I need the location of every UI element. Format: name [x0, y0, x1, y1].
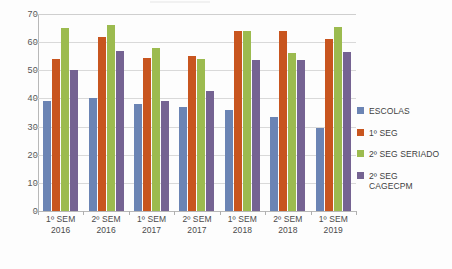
x-category-label: 1º SEM2018 [220, 214, 265, 236]
x-category-line-1: 2017 [174, 225, 219, 236]
bar [188, 56, 196, 211]
legend-swatch-icon [357, 150, 364, 157]
bar [343, 52, 351, 211]
x-category-line-0: 2º SEM [83, 214, 128, 225]
x-category-line-1: 2018 [220, 225, 265, 236]
x-tick-mark [220, 211, 221, 215]
legend-item[interactable]: 1º SEG [357, 128, 452, 139]
x-category-line-1: 2019 [311, 225, 356, 236]
bar [334, 27, 342, 211]
x-tick-mark [83, 211, 84, 215]
bar [70, 70, 78, 211]
x-category-label: 2º SEM2017 [174, 214, 219, 236]
x-category-line-0: 1º SEM [311, 214, 356, 225]
bar-chart: 010203040506070 1º SEM20162º SEM20161º S… [0, 0, 452, 269]
legend-item[interactable]: 2º SEG CAGECPM [357, 171, 452, 192]
x-category-line-1: 2016 [38, 225, 83, 236]
bar [206, 91, 214, 211]
bar-group [265, 14, 310, 211]
bar [52, 59, 60, 211]
x-category-line-0: 2º SEM [174, 214, 219, 225]
x-tick-mark [38, 211, 39, 215]
bar [225, 110, 233, 211]
bar [252, 60, 260, 211]
legend-swatch-icon [357, 129, 364, 136]
x-category-line-0: 1º SEM [129, 214, 174, 225]
bar [234, 31, 242, 211]
bar [316, 128, 324, 211]
x-category-label: 1º SEM2019 [311, 214, 356, 236]
x-category-label: 1º SEM2016 [38, 214, 83, 236]
y-axis-labels: 010203040506070 [0, 0, 38, 269]
x-category-line-0: 2º SEM [265, 214, 310, 225]
bar [288, 53, 296, 211]
legend-item-label: 2º SEG SERIADO [369, 149, 439, 160]
legend-item-label: 2º SEG CAGECPM [369, 171, 413, 192]
x-category-line-0: 1º SEM [220, 214, 265, 225]
bar-group [38, 14, 83, 211]
x-category-line-1: 2016 [83, 225, 128, 236]
x-tick-mark [356, 211, 357, 215]
bar-group [220, 14, 265, 211]
bar [116, 51, 124, 211]
bar-group [174, 14, 219, 211]
bar [270, 117, 278, 211]
bar [243, 31, 251, 211]
bar [152, 48, 160, 211]
bar-group [311, 14, 356, 211]
bar [297, 60, 305, 211]
x-tick-mark [311, 211, 312, 215]
legend-item[interactable]: 2º SEG SERIADO [357, 149, 452, 160]
bar [61, 28, 69, 211]
chart-legend: ESCOLAS1º SEG2º SEG SERIADO2º SEG CAGECP… [357, 106, 452, 203]
bar [179, 107, 187, 211]
x-category-line-0: 1º SEM [38, 214, 83, 225]
bar [43, 101, 51, 211]
bar-group [129, 14, 174, 211]
legend-swatch-icon [357, 172, 364, 179]
legend-item-label: ESCOLAS [369, 106, 410, 117]
bar [98, 37, 106, 211]
bar [197, 59, 205, 211]
bar [279, 31, 287, 211]
x-category-label: 2º SEM2018 [265, 214, 310, 236]
x-category-label: 2º SEM2016 [83, 214, 128, 236]
x-category-line-1: 2017 [129, 225, 174, 236]
legend-item-label: 1º SEG [369, 128, 398, 139]
bar [134, 104, 142, 211]
legend-swatch-icon [357, 107, 364, 114]
bar [143, 58, 151, 211]
x-tick-mark [174, 211, 175, 215]
bar [325, 39, 333, 211]
bar [161, 101, 169, 211]
x-tick-mark [129, 211, 130, 215]
bar [107, 25, 115, 211]
x-category-label: 1º SEM2017 [129, 214, 174, 236]
scan-artifact [150, 1, 210, 3]
legend-item[interactable]: ESCOLAS [357, 106, 452, 117]
bar-group [83, 14, 128, 211]
plot-area [38, 14, 356, 211]
x-tick-mark [265, 211, 266, 215]
bar [89, 98, 97, 211]
x-axis-line [38, 211, 356, 212]
x-axis-categories: 1º SEM20162º SEM20161º SEM20172º SEM2017… [38, 214, 356, 254]
x-category-line-1: 2018 [265, 225, 310, 236]
